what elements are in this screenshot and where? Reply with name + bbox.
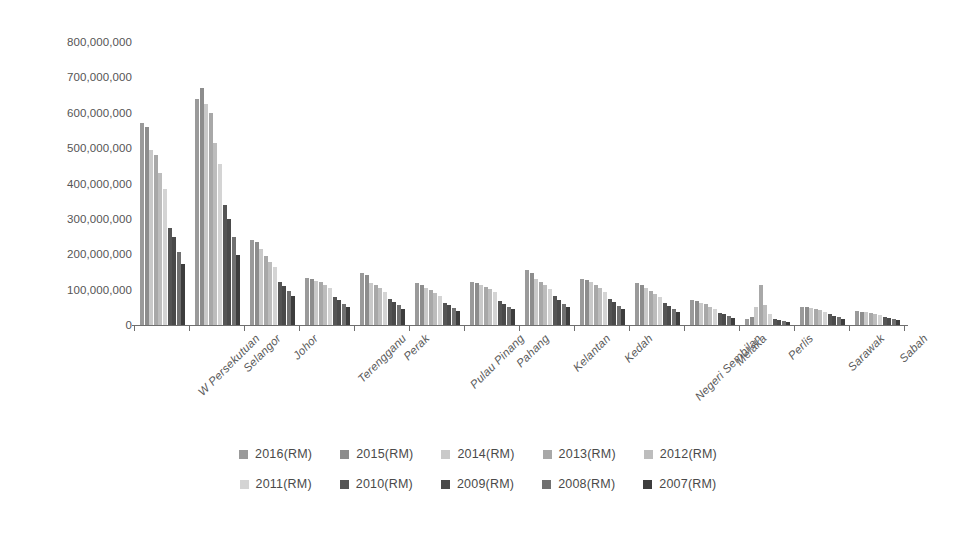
bar bbox=[644, 288, 648, 325]
legend-item[interactable]: 2016(RM) bbox=[239, 447, 312, 461]
x-axis-tick bbox=[464, 325, 465, 331]
bar bbox=[708, 307, 712, 325]
bar bbox=[149, 150, 153, 325]
bar bbox=[383, 292, 387, 325]
bar bbox=[883, 317, 887, 325]
legend-item[interactable]: 2007(RM) bbox=[643, 477, 716, 491]
bar-group bbox=[250, 42, 296, 325]
bar bbox=[378, 288, 382, 325]
bar bbox=[264, 256, 268, 325]
bar bbox=[456, 311, 460, 325]
bar bbox=[424, 288, 428, 325]
bar bbox=[722, 314, 726, 325]
bar bbox=[695, 301, 699, 325]
legend-item[interactable]: 2010(RM) bbox=[340, 477, 413, 491]
bar bbox=[809, 308, 813, 325]
legend-swatch-icon bbox=[643, 480, 652, 489]
y-axis-tick-label: 500,000,000 bbox=[6, 142, 132, 154]
y-axis-tick-label: 100,000,000 bbox=[6, 284, 132, 296]
bar-group bbox=[470, 42, 516, 325]
bar-group bbox=[360, 42, 406, 325]
bar bbox=[328, 288, 332, 325]
bar bbox=[598, 288, 602, 325]
bar bbox=[585, 280, 589, 325]
bar bbox=[177, 252, 181, 325]
bar bbox=[278, 282, 282, 325]
legend-swatch-icon bbox=[441, 450, 450, 459]
bar bbox=[443, 303, 447, 325]
bar bbox=[663, 303, 667, 325]
bar-group bbox=[855, 42, 901, 325]
bar bbox=[287, 291, 291, 325]
bar bbox=[731, 318, 735, 325]
bar bbox=[603, 292, 607, 325]
bar bbox=[163, 189, 167, 325]
bar bbox=[475, 283, 479, 325]
bar bbox=[401, 309, 405, 325]
legend-item[interactable]: 2015(RM) bbox=[340, 447, 413, 461]
legend-item[interactable]: 2011(RM) bbox=[240, 477, 312, 491]
bar bbox=[319, 282, 323, 325]
x-axis-category-label: Johor bbox=[291, 332, 321, 362]
bar bbox=[658, 297, 662, 325]
bar bbox=[539, 282, 543, 325]
bar bbox=[333, 297, 337, 325]
bar bbox=[511, 309, 515, 325]
bar bbox=[420, 285, 424, 325]
bar bbox=[452, 308, 456, 325]
bar bbox=[667, 306, 671, 325]
x-axis-category-label: Sarawak bbox=[846, 332, 887, 373]
bar bbox=[388, 299, 392, 325]
bar bbox=[617, 306, 621, 325]
y-axis-tick-label: 0 bbox=[6, 319, 132, 331]
bar bbox=[479, 285, 483, 325]
bar bbox=[484, 287, 488, 325]
bar-group bbox=[415, 42, 461, 325]
bar bbox=[369, 283, 373, 325]
bar bbox=[589, 282, 593, 325]
bar bbox=[594, 285, 598, 325]
bar bbox=[291, 296, 295, 325]
x-axis-category-label: Terengganu bbox=[356, 332, 409, 385]
bar bbox=[365, 275, 369, 325]
bar bbox=[718, 313, 722, 325]
x-axis-line bbox=[132, 325, 908, 326]
bar bbox=[429, 290, 433, 325]
bar bbox=[763, 305, 767, 325]
bar bbox=[690, 300, 694, 325]
y-axis-tick-label: 300,000,000 bbox=[6, 213, 132, 225]
bar bbox=[346, 307, 350, 325]
bar bbox=[342, 304, 346, 325]
bar bbox=[502, 304, 506, 325]
bar bbox=[713, 309, 717, 325]
legend-item[interactable]: 2014(RM) bbox=[441, 447, 514, 461]
y-axis-tick-label: 600,000,000 bbox=[6, 107, 132, 119]
bar bbox=[250, 240, 254, 325]
legend-item[interactable]: 2009(RM) bbox=[441, 477, 514, 491]
bar bbox=[181, 264, 185, 325]
bar bbox=[195, 99, 199, 325]
x-axis-tick bbox=[849, 325, 850, 331]
bar bbox=[621, 309, 625, 325]
bar bbox=[887, 318, 891, 325]
legend-row: 2016(RM)2015(RM)2014(RM)2013(RM)2012(RM) bbox=[239, 447, 717, 461]
bar bbox=[259, 249, 263, 325]
legend-label: 2010(RM) bbox=[356, 477, 413, 491]
bar bbox=[534, 279, 538, 325]
bar bbox=[553, 296, 557, 325]
bar-group bbox=[525, 42, 571, 325]
x-axis-category-label: Sabah bbox=[897, 332, 930, 365]
bar bbox=[433, 293, 437, 325]
bar bbox=[869, 313, 873, 325]
bar bbox=[314, 281, 318, 325]
legend-swatch-icon bbox=[644, 450, 653, 459]
x-axis-tick bbox=[409, 325, 410, 331]
legend-item[interactable]: 2012(RM) bbox=[644, 447, 717, 461]
legend-item[interactable]: 2013(RM) bbox=[543, 447, 616, 461]
bar bbox=[493, 292, 497, 325]
plot-area bbox=[138, 42, 908, 325]
bar bbox=[649, 291, 653, 325]
legend-item[interactable]: 2008(RM) bbox=[542, 477, 615, 491]
legend-swatch-icon bbox=[340, 450, 349, 459]
bar bbox=[612, 302, 616, 325]
